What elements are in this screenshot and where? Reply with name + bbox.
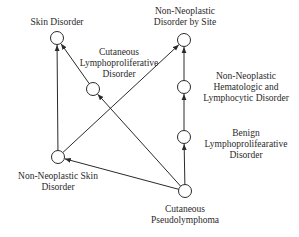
label-line: Skin Disorder [18, 17, 96, 28]
label-line: Disorder [74, 69, 164, 80]
ontology-graph [0, 0, 299, 237]
label-line: Disorder [200, 150, 292, 161]
label-line: Non-Neoplastic Skin [12, 171, 104, 182]
edge-pseudo-to-cld [98, 94, 181, 186]
label-skin-disorder: Skin Disorder [18, 17, 96, 28]
edge-pseudo-to-benign [184, 144, 185, 185]
node-nnskin [52, 151, 65, 164]
node-pseudo [179, 185, 192, 198]
label-line: Lymphocytic Disorder [196, 93, 296, 104]
node-cld [87, 83, 100, 96]
node-benign [178, 131, 191, 144]
node-nnheme [178, 81, 191, 94]
edge-nnskin-to-skin [57, 45, 58, 151]
label-line: Cutaneous [74, 47, 164, 58]
label-non-neoplastic-disorder-by-site: Non-Neoplastic Disorder by Site [145, 6, 225, 28]
label-line: Benign [200, 128, 292, 139]
label-cutaneous-pseudolymphoma: Cutaneous Pseudolymphoma [143, 204, 227, 226]
node-skin [51, 32, 64, 45]
label-line: Pseudolymphoma [143, 215, 227, 226]
label-line: Non-Neoplastic [145, 6, 225, 17]
label-non-neoplastic-hematologic-lymphocytic-disorder: Non-Neoplastic Hematologic and Lymphocyt… [196, 71, 296, 104]
node-nnsite [178, 34, 191, 47]
label-line: Non-Neoplastic [196, 71, 296, 82]
label-line: Hematologic and [196, 82, 296, 93]
label-line: Disorder by Site [145, 17, 225, 28]
label-line: Lymphoprolifearative [200, 139, 292, 150]
label-line: Disorder [12, 182, 104, 193]
label-line: Cutaneous [143, 204, 227, 215]
label-non-neoplastic-skin-disorder: Non-Neoplastic Skin Disorder [12, 171, 104, 193]
label-line: Lymphoproliferative [74, 58, 164, 69]
label-benign-lymphoprolifearative-disorder: Benign Lymphoprolifearative Disorder [200, 128, 292, 161]
label-cutaneous-lymphoproliferative-disorder: Cutaneous Lymphoproliferative Disorder [74, 47, 164, 80]
